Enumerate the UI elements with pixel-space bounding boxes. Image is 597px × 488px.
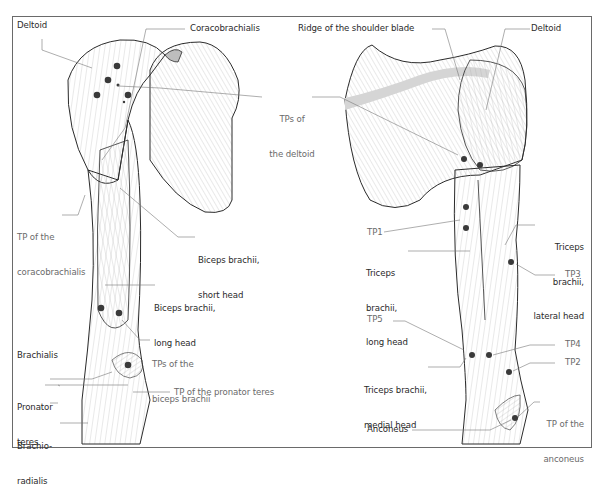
right-arm-posterior xyxy=(312,29,555,444)
label-tp5: TP5 xyxy=(367,314,383,326)
label-deltoid-left: Deltoid xyxy=(17,20,47,32)
label-ridge-shoulder-blade: Ridge of the shoulder blade xyxy=(298,23,414,35)
label-tp1: TP1 xyxy=(367,227,383,239)
label-tps-deltoid: TPs of the deltoid xyxy=(262,91,322,172)
label-brachialis: Brachialis xyxy=(17,350,58,362)
label-anconeus: Anconeus xyxy=(367,424,408,436)
label-tp2: TP2 xyxy=(565,357,581,369)
label-tp-coracobrachialis: TP of the coracobrachialis xyxy=(17,209,86,290)
label-deltoid-right: Deltoid xyxy=(531,23,561,35)
label-tp-anconeus: TP of the anconeus xyxy=(524,396,584,477)
label-coracobrachialis: Coracobrachialis xyxy=(190,23,260,35)
label-tp4: TP4 xyxy=(565,339,581,351)
label-tp3: TP3 xyxy=(565,269,581,281)
label-triceps-long-head: Triceps brachii, long head xyxy=(366,245,408,360)
label-tps-biceps: TPs of the biceps brachii xyxy=(152,336,210,417)
label-tp-pronator-teres: TP of the pronator teres xyxy=(174,387,274,399)
label-brachioradialis: Brachio- radialis xyxy=(17,418,52,488)
